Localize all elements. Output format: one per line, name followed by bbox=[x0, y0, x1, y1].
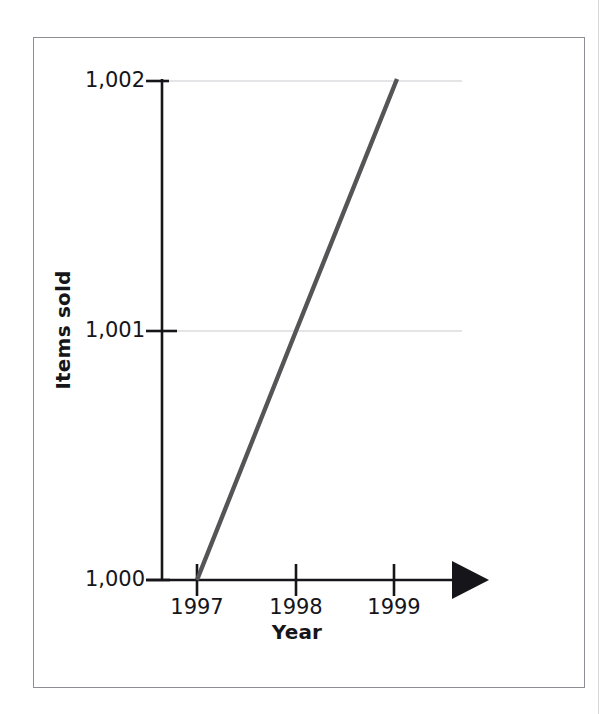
x-tick-label-1997: 1997 bbox=[152, 597, 242, 618]
line-chart: Items sold Year 1,002 1,001 1,000 1997 1… bbox=[0, 0, 606, 714]
figure-page: Items sold Year 1,002 1,001 1,000 1997 1… bbox=[0, 0, 606, 714]
y-tick-label-1001: 1,001 bbox=[65, 320, 145, 341]
x-axis-title: Year bbox=[237, 620, 357, 644]
x-tick-label-1998: 1998 bbox=[251, 597, 341, 618]
y-tick-label-1000: 1,000 bbox=[65, 569, 145, 590]
data-series-line-items-sold bbox=[197, 79, 397, 580]
x-axis-arrowhead-icon bbox=[452, 561, 489, 599]
x-tick-label-1999: 1999 bbox=[349, 597, 439, 618]
y-tick-label-1002: 1,002 bbox=[65, 70, 145, 91]
